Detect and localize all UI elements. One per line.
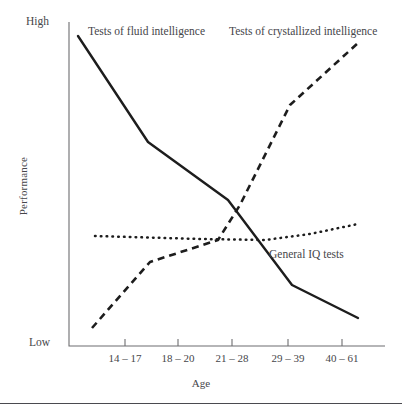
series-line-general-iq: [95, 224, 358, 240]
y-axis-title: Performance: [17, 141, 29, 231]
x-axis-tick-label-3: 29 – 39: [259, 352, 317, 364]
series-line-fluid-intelligence: [78, 36, 358, 318]
x-axis-title: Age: [0, 377, 402, 389]
x-axis-tick-label-4: 40 – 61: [313, 352, 371, 364]
axes-group: [69, 22, 385, 346]
series-line-crystallized-intelligence: [92, 43, 358, 328]
x-axis-ticks: [125, 339, 342, 346]
annotation-general-iq: General IQ tests: [269, 248, 344, 260]
annotation-fluid-intelligence: Tests of fluid intelligence: [88, 25, 205, 37]
x-axis-tick-label-2: 21 – 28: [203, 352, 261, 364]
x-axis-tick-label-0: 14 – 17: [96, 352, 154, 364]
y-axis-bottom-label: Low: [29, 336, 50, 348]
chart-figure: High Low Performance Age 14 – 1718 – 202…: [0, 0, 402, 417]
annotation-crystallized-intelligence: Tests of crystallized intelligence: [229, 25, 377, 37]
axis-lines: [69, 22, 385, 346]
x-axis-tick-label-1: 18 – 20: [149, 352, 207, 364]
y-axis-top-label: High: [26, 15, 49, 27]
footer-divider: [0, 403, 402, 404]
series-group: [78, 36, 358, 328]
